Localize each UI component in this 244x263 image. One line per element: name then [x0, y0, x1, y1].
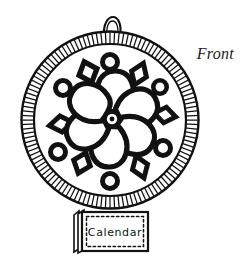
view-label-front: Front	[197, 45, 234, 63]
tag-label: Calendar	[88, 226, 142, 239]
round-gem-bottom	[100, 171, 120, 191]
ornament-illustration: Calendar Front	[0, 0, 244, 263]
round-gem-left-lower	[48, 142, 68, 162]
center-gem	[103, 110, 122, 129]
ornament-artwork: Calendar	[0, 0, 244, 263]
calendar-tag: Calendar	[74, 210, 148, 253]
